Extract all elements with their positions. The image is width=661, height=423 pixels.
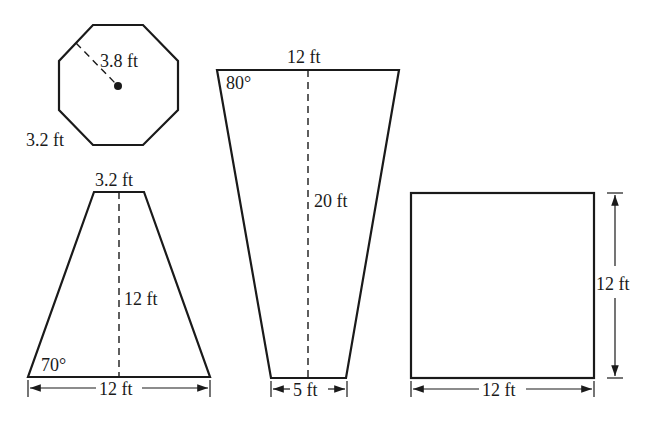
octagon-figure: 3.8 ft 3.2 ft [26,25,178,150]
square-figure: 12 ft 12 ft [411,193,630,400]
square-height-dimension: 12 ft [596,193,630,378]
trapezoid-height-label: 12 ft [124,289,158,309]
square-width-label: 12 ft [482,380,516,400]
octagon-radius-label: 3.8 ft [100,51,138,71]
inverted-trapezoid-top-label: 12 ft [287,47,321,67]
octagon-side-label: 3.2 ft [26,130,64,150]
square-height-label: 12 ft [596,274,630,294]
square-width-dimension: 12 ft [411,380,594,400]
trapezoid-top-label: 3.2 ft [95,170,133,190]
inverted-trapezoid-shape [217,70,399,378]
shapes-diagram: 3.8 ft 3.2 ft 3.2 ft 12 ft 70° 12 ft 12 … [0,0,661,423]
inverted-trapezoid-angle-label: 80° [226,73,251,93]
inverted-trapezoid-base-label: 5 ft [293,380,318,400]
inverted-trapezoid-figure: 12 ft 80° 20 ft 5 ft [217,47,399,400]
trapezoid-base-label: 12 ft [99,379,133,399]
trapezoid-angle-label: 70° [41,355,66,375]
octagon-center-dot [114,82,122,90]
trapezoid-base-dimension: 12 ft [28,379,210,399]
square-shape [411,193,594,378]
inverted-trapezoid-height-label: 20 ft [314,191,348,211]
trapezoid-figure: 3.2 ft 12 ft 70° 12 ft [28,170,210,399]
inverted-trapezoid-base-dimension: 5 ft [271,380,347,400]
